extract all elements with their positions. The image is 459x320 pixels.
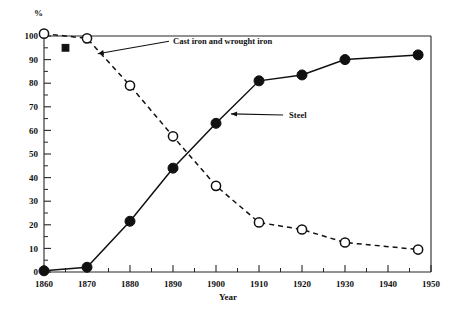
x-tick-label-1940: 1940 (379, 279, 398, 289)
data-point (168, 163, 178, 173)
y-tick-label-10: 10 (29, 244, 39, 254)
x-tick-label-1880: 1880 (121, 279, 140, 289)
data-point (211, 118, 221, 128)
data-point (125, 81, 134, 90)
x-tick-label-1900: 1900 (207, 279, 226, 289)
y-tick-label-20: 20 (29, 220, 39, 230)
y-tick-label-0: 0 (34, 267, 39, 277)
data-point (211, 181, 220, 190)
y-tick-label-70: 70 (29, 102, 39, 112)
y-tick-label-30: 30 (29, 196, 39, 206)
y-tick-label-60: 60 (29, 126, 39, 136)
data-point (340, 238, 349, 247)
line-chart-canvas: % 0102030405060708090100 186018701880189… (0, 0, 459, 320)
data-point (125, 216, 135, 226)
data-point (82, 262, 92, 272)
data-point (254, 76, 264, 86)
data-point (39, 266, 49, 276)
y-tick-label-90: 90 (29, 55, 39, 65)
data-point (297, 225, 306, 234)
data-point (413, 50, 423, 60)
data-point (297, 70, 307, 80)
x-tick-label-1890: 1890 (164, 279, 183, 289)
data-point (340, 55, 350, 65)
data-point (82, 34, 91, 43)
data-point (414, 245, 423, 254)
x-tick-label-1930: 1930 (336, 279, 355, 289)
data-point (254, 218, 263, 227)
y-axis-unit-label: % (34, 8, 43, 18)
x-tick-label-1920: 1920 (293, 279, 312, 289)
x-tick-label-1910: 1910 (250, 279, 269, 289)
annotation-label-1: Steel (289, 110, 307, 120)
y-tick-label-40: 40 (29, 173, 39, 183)
y-tick-label-100: 100 (25, 31, 39, 41)
x-axis-title: Year (219, 292, 237, 302)
y-tick-label-50: 50 (29, 149, 39, 159)
annotation-label-0: Cast iron and wrought iron (173, 36, 272, 46)
data-point (168, 132, 177, 141)
x-tick-label-1860: 1860 (35, 279, 54, 289)
chart-figure: % 0102030405060708090100 186018701880189… (0, 0, 459, 320)
data-point (39, 29, 48, 38)
x-tick-label-1950: 1950 (422, 279, 441, 289)
y-tick-label-80: 80 (29, 78, 39, 88)
x-tick-label-1870: 1870 (78, 279, 97, 289)
data-point (62, 44, 69, 51)
